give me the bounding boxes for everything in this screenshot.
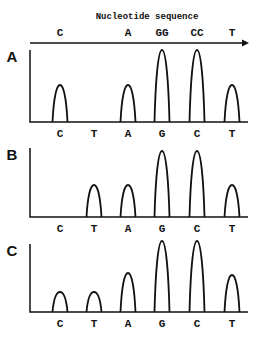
panel-axes (30, 244, 248, 312)
base-label: T (91, 128, 98, 140)
peak (155, 241, 170, 312)
peak (121, 85, 136, 122)
base-label: C (57, 318, 64, 330)
base-label: G (159, 128, 166, 140)
base-label: T (91, 318, 98, 330)
panel-label: A (7, 48, 18, 65)
peak (155, 151, 170, 217)
panel-axes (30, 148, 248, 217)
figure-title: Nucleotide sequence (96, 12, 199, 22)
base-label: C (57, 223, 64, 235)
panel-axes (30, 50, 248, 122)
peak (225, 275, 240, 312)
base-label: C (194, 223, 201, 235)
base-label: T (229, 318, 236, 330)
panel-c: CCTAGCT (7, 241, 248, 330)
sequence-label: A (125, 27, 132, 39)
peak (53, 85, 68, 122)
base-label: G (159, 318, 166, 330)
base-label: A (125, 223, 132, 235)
sequence-label: T (229, 27, 236, 39)
peak (87, 185, 102, 217)
sequence-label: C (57, 27, 64, 39)
sequence-label: GG (155, 27, 169, 39)
panel-b: BCTAGCT (7, 146, 248, 235)
peak (53, 292, 68, 312)
base-label: A (125, 128, 132, 140)
base-label: C (194, 128, 201, 140)
peak (87, 292, 102, 312)
peak (155, 50, 170, 122)
base-label: T (91, 223, 98, 235)
peak (225, 85, 240, 122)
peak (121, 273, 136, 312)
panels: ACTAGCTBCTAGCTCCTAGCT (7, 48, 248, 330)
peak (121, 185, 136, 217)
base-label: C (194, 318, 201, 330)
panel-a: ACTAGCT (7, 48, 248, 140)
peak (225, 185, 240, 217)
chromatogram-figure: Nucleotide sequence CAGGCCT ACTAGCTBCTAG… (0, 0, 260, 339)
peak (190, 151, 205, 217)
sequence-label: CC (190, 27, 204, 39)
sequence-arrow (30, 40, 249, 47)
peak (190, 241, 205, 312)
base-label: G (159, 223, 166, 235)
base-label: T (229, 128, 236, 140)
panel-label: C (7, 242, 18, 259)
panel-label: B (7, 146, 18, 163)
peak (190, 50, 205, 122)
sequence-labels: CAGGCCT (57, 27, 236, 39)
base-label: C (57, 128, 64, 140)
base-label: A (125, 318, 132, 330)
base-label: T (229, 223, 236, 235)
